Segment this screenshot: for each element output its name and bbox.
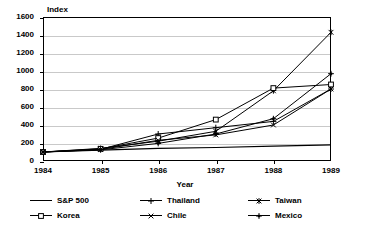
y-axis-tick bbox=[40, 54, 44, 55]
legend-marker-icon bbox=[248, 195, 270, 206]
legend-label: Chile bbox=[167, 211, 187, 220]
y-axis-tick bbox=[40, 126, 44, 127]
y-axis-tick bbox=[40, 90, 44, 91]
legend-marker-icon bbox=[30, 210, 52, 221]
x-axis-tick-label: 1987 bbox=[196, 167, 236, 175]
gridline bbox=[44, 90, 330, 91]
chart-legend: S&P 500ThailandTaiwanKoreaChileMexico bbox=[30, 193, 350, 227]
legend-label: Thailand bbox=[167, 196, 200, 205]
gridline bbox=[44, 126, 330, 127]
y-axis-tick-label: 1200 bbox=[0, 49, 34, 57]
gridline bbox=[44, 36, 330, 37]
legend-label: Taiwan bbox=[275, 196, 302, 205]
gridline bbox=[44, 108, 330, 109]
x-axis-tick-label: 1988 bbox=[253, 167, 293, 175]
x-axis-tick-label: 1986 bbox=[138, 167, 178, 175]
y-axis-tick bbox=[40, 18, 44, 19]
plot-area bbox=[43, 17, 331, 161]
x-axis-tick-label: 1985 bbox=[81, 167, 121, 175]
legend-marker-icon bbox=[30, 195, 52, 206]
y-axis-tick bbox=[40, 108, 44, 109]
y-axis-tick-label: 0 bbox=[0, 157, 34, 165]
legend-marker-icon bbox=[140, 210, 162, 221]
legend-label: S&P 500 bbox=[57, 196, 89, 205]
gridline bbox=[44, 54, 330, 55]
y-axis-tick-label: 200 bbox=[0, 139, 34, 147]
y-axis-tick-label: 400 bbox=[0, 121, 34, 129]
x-axis-tick bbox=[159, 160, 160, 164]
legend-marker-icon bbox=[140, 195, 162, 206]
y-axis-tick bbox=[40, 162, 44, 163]
y-axis-tick bbox=[40, 144, 44, 145]
legend-item-s-p-500[interactable]: S&P 500 bbox=[30, 193, 89, 207]
legend-marker-icon bbox=[248, 210, 270, 221]
legend-item-chile[interactable]: Chile bbox=[140, 208, 187, 222]
y-axis-tick-label: 600 bbox=[0, 103, 34, 111]
legend-item-mexico[interactable]: Mexico bbox=[248, 208, 302, 222]
y-axis-tick bbox=[40, 72, 44, 73]
gridline bbox=[44, 72, 330, 73]
legend-item-thailand[interactable]: Thailand bbox=[140, 193, 200, 207]
y-axis-title: Index bbox=[47, 5, 68, 14]
x-axis-title: Year bbox=[0, 180, 370, 189]
y-axis-tick-label: 1400 bbox=[0, 31, 34, 39]
y-axis-tick-label: 1000 bbox=[0, 67, 34, 75]
x-axis-tick bbox=[102, 160, 103, 164]
legend-label: Korea bbox=[57, 211, 80, 220]
y-axis-tick-label: 1600 bbox=[0, 13, 34, 21]
x-axis-tick-label: 1989 bbox=[311, 167, 351, 175]
y-axis-tick-label: 800 bbox=[0, 85, 34, 93]
x-axis-tick bbox=[274, 160, 275, 164]
legend-item-korea[interactable]: Korea bbox=[30, 208, 80, 222]
legend-label: Mexico bbox=[275, 211, 302, 220]
x-axis-tick bbox=[217, 160, 218, 164]
chart-screenshot: Index 02004006008001000120014001600 1984… bbox=[0, 0, 370, 241]
gridline bbox=[44, 144, 330, 145]
legend-item-taiwan[interactable]: Taiwan bbox=[248, 193, 302, 207]
x-axis-tick-label: 1984 bbox=[23, 167, 63, 175]
y-axis-tick bbox=[40, 36, 44, 37]
